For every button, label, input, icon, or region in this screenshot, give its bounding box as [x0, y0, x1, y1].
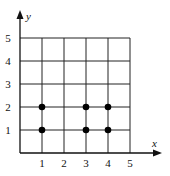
data-point [39, 127, 46, 134]
y-tick-label: 2 [5, 101, 11, 113]
y-tick-label: 5 [5, 32, 11, 44]
x-tick-label: 2 [61, 157, 67, 169]
y-axis-arrow-icon [17, 10, 24, 19]
y-tick-label: 4 [5, 55, 11, 67]
data-point [105, 127, 112, 134]
data-point [83, 127, 90, 134]
data-point [83, 104, 90, 111]
x-tick-label: 4 [105, 157, 111, 169]
tick-labels: 1234512345 [5, 32, 133, 169]
grid [20, 38, 130, 153]
y-tick-label: 3 [5, 78, 11, 90]
x-axis-arrow-icon [153, 150, 162, 157]
y-axis-label: y [25, 10, 31, 22]
y-tick-label: 1 [5, 124, 11, 136]
data-points [39, 104, 112, 134]
scatter-plot: y x 1234512345 [0, 0, 170, 176]
x-tick-label: 3 [83, 157, 89, 169]
data-point [105, 104, 112, 111]
axes: y x [17, 10, 163, 157]
x-tick-label: 5 [127, 157, 133, 169]
x-axis-label: x [151, 137, 157, 149]
x-tick-label: 1 [39, 157, 45, 169]
data-point [39, 104, 46, 111]
